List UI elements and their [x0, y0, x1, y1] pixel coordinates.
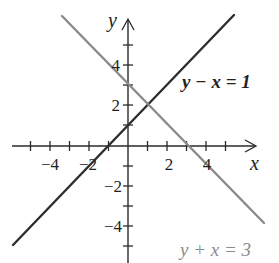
y-tick-label-4: 4 [112, 56, 121, 75]
x-tick-label-2: 2 [165, 155, 174, 174]
x-axis [12, 140, 256, 152]
linear-system-graph: −4 −2 2 4 4 2 −2 −4 x y y − x = 1 y + x … [0, 0, 279, 263]
line-y-minus-x-equals-1 [13, 15, 234, 245]
equation-label-2: y + x = 3 [178, 239, 251, 260]
x-tick-label-4: 4 [203, 155, 212, 174]
y-axis-label: y [106, 9, 117, 32]
equation-label-1: y − x = 1 [180, 71, 251, 92]
y-tick-label-neg4: −4 [104, 217, 123, 236]
x-tick-label-neg4: −4 [41, 155, 60, 174]
x-tick-label-neg2: −2 [79, 155, 97, 174]
y-axis [122, 19, 134, 263]
y-tick-label-2: 2 [112, 96, 121, 115]
line-y-plus-x-equals-3 [62, 16, 264, 223]
x-axis-label: x [249, 152, 259, 174]
y-tick-label-neg2: −2 [104, 177, 122, 196]
